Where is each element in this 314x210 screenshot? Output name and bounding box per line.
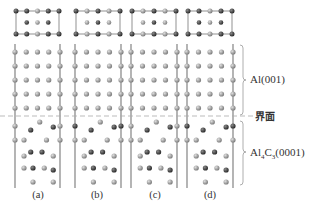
cell-atom bbox=[107, 32, 112, 37]
cell-atom bbox=[208, 20, 213, 25]
interface-atom bbox=[128, 137, 133, 142]
al-atom bbox=[107, 91, 112, 96]
cell-atom bbox=[85, 9, 90, 14]
al-atom bbox=[140, 77, 145, 82]
interface-atom bbox=[118, 123, 123, 128]
al-atom bbox=[51, 179, 56, 184]
al-atom bbox=[151, 91, 156, 96]
interface-atom bbox=[12, 123, 17, 128]
cell-atom bbox=[57, 9, 62, 14]
interface-atom bbox=[118, 137, 123, 142]
al4c3-label-al: Al bbox=[250, 146, 261, 158]
c-atom bbox=[212, 149, 217, 154]
al-atom bbox=[207, 105, 212, 110]
al-atom bbox=[138, 137, 143, 142]
al-atom bbox=[57, 49, 62, 54]
al-atom bbox=[82, 137, 87, 142]
cell-atom bbox=[14, 9, 19, 14]
al-atom bbox=[196, 49, 201, 54]
al-atom bbox=[138, 153, 143, 158]
cell-atom bbox=[35, 9, 40, 14]
al-atom bbox=[140, 63, 145, 68]
cell-atom bbox=[186, 9, 191, 14]
c-atom bbox=[224, 124, 229, 129]
cell-atom bbox=[197, 9, 202, 14]
c-atom bbox=[28, 149, 33, 154]
al-atom bbox=[102, 165, 107, 170]
c-atom bbox=[224, 167, 229, 172]
cell-atom bbox=[46, 32, 51, 37]
al-atom bbox=[98, 119, 103, 124]
cell-atom bbox=[152, 20, 157, 25]
al-atom bbox=[219, 63, 224, 68]
cell-atom bbox=[96, 20, 101, 25]
al-atom bbox=[161, 137, 166, 142]
cell-atom bbox=[130, 9, 135, 14]
interface-atom bbox=[184, 137, 189, 142]
al-atom bbox=[57, 77, 62, 82]
al-atom bbox=[184, 77, 189, 82]
al-atom bbox=[46, 49, 51, 54]
al-atom bbox=[128, 91, 133, 96]
al-atom bbox=[24, 91, 29, 96]
al-atom bbox=[24, 77, 29, 82]
al-atom bbox=[151, 63, 156, 68]
cell-atom bbox=[118, 32, 123, 37]
al-atom bbox=[151, 105, 156, 110]
cell-atom bbox=[107, 9, 112, 14]
interface-atom bbox=[174, 123, 179, 128]
cell-atom bbox=[152, 9, 157, 14]
c-atom bbox=[156, 149, 161, 154]
al-atom bbox=[91, 179, 96, 184]
al-atom bbox=[184, 49, 189, 54]
cell-atom bbox=[85, 32, 90, 37]
al-atom bbox=[72, 49, 77, 54]
al-atom bbox=[174, 49, 179, 54]
panel-label-b: (b) bbox=[91, 189, 103, 200]
cell-atom bbox=[219, 20, 224, 25]
al-atom bbox=[107, 63, 112, 68]
c-atom bbox=[145, 149, 150, 154]
c-atom bbox=[100, 149, 105, 154]
al-atom bbox=[118, 77, 123, 82]
al-atom bbox=[128, 63, 133, 68]
al-atom bbox=[184, 105, 189, 110]
al-atom bbox=[219, 77, 224, 82]
al-atom bbox=[35, 105, 40, 110]
al-atom bbox=[107, 77, 112, 82]
al-atom bbox=[219, 105, 224, 110]
cell-atom bbox=[57, 32, 62, 37]
al-atom bbox=[72, 77, 77, 82]
al-lattice-atoms bbox=[12, 49, 235, 110]
interface-atom bbox=[230, 137, 235, 142]
cell-atom bbox=[96, 32, 101, 37]
al-atom bbox=[219, 91, 224, 96]
al-atom bbox=[196, 105, 201, 110]
cell-atom bbox=[85, 20, 90, 25]
al-atom bbox=[57, 105, 62, 110]
cell-atom bbox=[163, 9, 168, 14]
al-atom bbox=[95, 49, 100, 54]
cell-atom bbox=[24, 9, 29, 14]
interface-label: 界面 bbox=[255, 108, 275, 123]
al-atom bbox=[24, 105, 29, 110]
al-atom bbox=[105, 137, 110, 142]
al-atom bbox=[12, 77, 17, 82]
al-atom bbox=[207, 63, 212, 68]
al4c3-label-tail: (0001) bbox=[275, 146, 304, 158]
al001-label: Al(001) bbox=[250, 73, 285, 85]
al-atom bbox=[163, 63, 168, 68]
al-atom bbox=[12, 49, 17, 54]
al-atom bbox=[35, 49, 40, 54]
interface-atom bbox=[57, 137, 62, 142]
c-atom bbox=[201, 127, 206, 132]
cell-atom bbox=[219, 9, 224, 14]
c-atom bbox=[89, 127, 94, 132]
al-atom bbox=[194, 137, 199, 142]
cell-atom bbox=[141, 32, 146, 37]
al-atom bbox=[207, 49, 212, 54]
al-atom bbox=[21, 137, 26, 142]
al-atom bbox=[118, 105, 123, 110]
cell-atom bbox=[14, 32, 19, 37]
al-atom bbox=[128, 77, 133, 82]
